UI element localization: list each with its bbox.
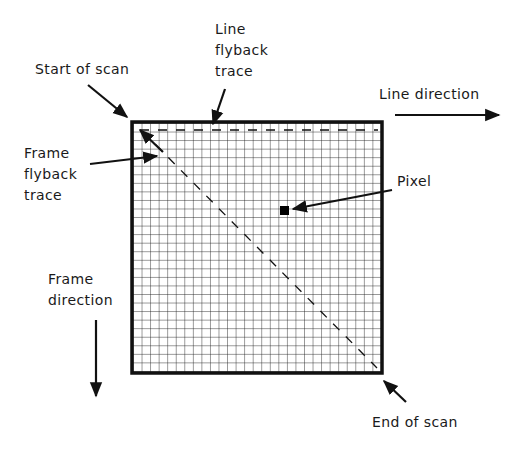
line-direction-label: Line direction [379, 84, 480, 104]
pixel-square [280, 206, 289, 215]
pixel-label: Pixel [397, 171, 431, 191]
start-of-scan-label: Start of scan [35, 59, 129, 79]
frame-flyback-trace-label: Frame flyback trace [24, 143, 77, 206]
end-of-scan-label: End of scan [372, 412, 458, 432]
line-flyback-trace-label: Line flyback trace [215, 19, 268, 82]
frame-direction-label: Frame direction [48, 269, 113, 311]
